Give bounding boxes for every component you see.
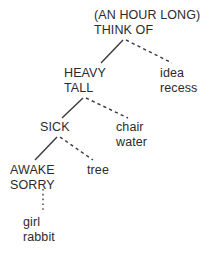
node-awake: AWAKE SORRY (10, 163, 55, 193)
node-heavy-line1: HEAVY (64, 66, 106, 81)
node-tree-line1: tree (87, 163, 109, 178)
node-root: (AN HOUR LONG) THINK OF (94, 8, 200, 38)
edge-root-to-heavy (101, 40, 123, 63)
node-girl-line1: girl (23, 215, 55, 230)
edge-sick-to-awake (35, 137, 57, 160)
node-chair-line2: water (116, 135, 147, 150)
node-idea-line2: recess (160, 81, 197, 96)
edge-root-to-idea (126, 40, 172, 63)
node-root-line1: (AN HOUR LONG) (94, 8, 200, 23)
node-girl-line2: rabbit (23, 230, 55, 245)
node-heavy-line2: TALL (64, 81, 106, 96)
node-chair: chair water (116, 120, 147, 150)
node-chair-line1: chair (116, 120, 147, 135)
tree-diagram: (AN HOUR LONG) THINK OF HEAVY TALL idea … (0, 0, 210, 256)
node-awake-line1: AWAKE (10, 163, 55, 178)
node-root-line2: THINK OF (94, 23, 200, 38)
node-idea-line1: idea (160, 66, 197, 81)
node-girl: girl rabbit (23, 215, 55, 245)
node-heavy: HEAVY TALL (64, 66, 106, 96)
node-idea: idea recess (160, 66, 197, 96)
edge-tall-to-chair (86, 98, 128, 118)
node-awake-line2: SORRY (10, 178, 55, 193)
node-tree: tree (87, 163, 109, 178)
edge-tall-to-sick (62, 98, 83, 118)
node-sick-line1: SICK (40, 120, 70, 135)
edge-sick-to-tree (60, 137, 93, 160)
node-sick: SICK (40, 120, 70, 135)
